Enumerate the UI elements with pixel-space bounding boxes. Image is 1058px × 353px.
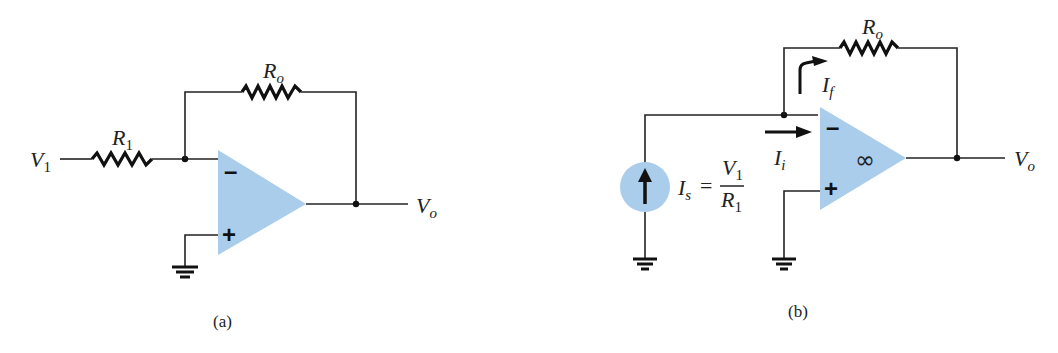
equals-sign: = bbox=[700, 173, 712, 198]
label-vo: Vo bbox=[416, 193, 437, 221]
label-fraction-numerator: V1 bbox=[722, 155, 743, 183]
feedback-wire-right bbox=[301, 92, 356, 204]
input-current-arrow-icon bbox=[765, 126, 812, 138]
label-ii: Ii bbox=[773, 145, 786, 173]
caption-a: (a) bbox=[213, 312, 232, 331]
ground-icon bbox=[772, 259, 796, 269]
ground-icon bbox=[172, 267, 198, 277]
feedback-wire-right bbox=[898, 48, 957, 158]
ground-wire bbox=[185, 235, 218, 266]
caption-b: (b) bbox=[788, 302, 808, 321]
feedback-wire-left bbox=[784, 48, 840, 115]
label-fraction-denominator: R1 bbox=[720, 187, 742, 215]
infinite-gain-symbol: ∞ bbox=[855, 146, 875, 174]
resistor-ro bbox=[242, 86, 301, 98]
label-v1: V1 bbox=[30, 147, 51, 175]
output-node bbox=[954, 155, 960, 161]
label-r1: R1 bbox=[111, 125, 133, 153]
label-ro: Ro bbox=[861, 14, 883, 42]
panel-a: – + V1 R1 Ro Vo (a) bbox=[30, 58, 437, 331]
inverting-sign: – bbox=[826, 113, 839, 140]
noninverting-sign: + bbox=[824, 175, 838, 202]
label-if: If bbox=[821, 72, 835, 100]
resistor-ro bbox=[840, 42, 898, 54]
inverting-sign: – bbox=[224, 157, 237, 184]
label-is: Is bbox=[677, 175, 691, 203]
output-node bbox=[353, 201, 359, 207]
label-vo: Vo bbox=[1014, 146, 1035, 174]
ground-icon bbox=[633, 259, 657, 269]
feedback-wire-left bbox=[185, 92, 242, 159]
circuit-diagram: – + V1 R1 Ro Vo (a) bbox=[0, 0, 1058, 353]
resistor-r1 bbox=[92, 153, 152, 165]
panel-b: – + ∞ bbox=[620, 14, 1035, 321]
noninverting-sign: + bbox=[222, 221, 236, 248]
label-ro: Ro bbox=[262, 58, 284, 86]
ground-wire bbox=[784, 191, 820, 258]
